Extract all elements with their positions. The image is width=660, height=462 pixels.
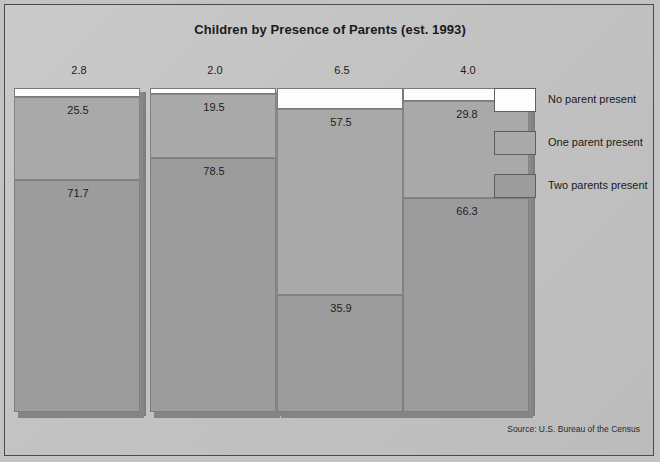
bar-value-label-no-parent: 2.8	[14, 64, 144, 76]
bar-value-label: 66.3	[404, 205, 529, 217]
legend-swatch	[494, 88, 536, 112]
bar-stack: 25.571.7	[14, 88, 140, 412]
bar-segment-two-parents-present: 35.9	[277, 295, 403, 411]
bar-3d-bottom-face	[154, 412, 280, 418]
bar-value-label: 71.7	[15, 187, 140, 199]
legend-label: One parent present	[548, 136, 643, 148]
bar-value-label: 57.5	[278, 116, 403, 128]
bar-value-label-no-parent: 4.0	[403, 64, 533, 76]
bar-segment-one-parent-present: 25.5	[14, 97, 140, 180]
chart-container: Children by Presence of Parents (est. 19…	[0, 0, 660, 462]
bar-3d-bottom-face	[407, 412, 533, 418]
bar-value-label: 25.5	[15, 104, 140, 116]
bar-3d-bottom-face	[18, 412, 144, 418]
bar-segment-no-parent-present	[14, 88, 140, 97]
bar-segment-no-parent-present	[277, 88, 403, 109]
bar-stack: 19.578.5	[150, 88, 276, 412]
legend-swatch	[494, 131, 536, 155]
source-note: Source: U.S. Bureau of the Census	[507, 424, 640, 434]
bar-segment-two-parents-present: 66.3	[403, 198, 529, 413]
bar-value-label: 78.5	[151, 165, 276, 177]
bar-value-label-no-parent: 2.0	[150, 64, 280, 76]
bar-value-label-no-parent: 6.5	[277, 64, 407, 76]
legend-swatch	[494, 174, 536, 198]
bar-value-label: 35.9	[278, 302, 403, 314]
bar-3d-bottom-face	[281, 412, 407, 418]
chart-title: Children by Presence of Parents (est. 19…	[0, 22, 660, 37]
bar-3d-side-face	[140, 92, 146, 416]
bar-value-label: 19.5	[151, 101, 276, 113]
bar-segment-one-parent-present: 19.5	[150, 94, 276, 157]
legend-label: No parent present	[548, 93, 636, 105]
bar-stack: 57.535.9	[277, 88, 403, 412]
legend-label: Two parents present	[548, 179, 648, 191]
bar-segment-two-parents-present: 71.7	[14, 180, 140, 412]
bar-segment-one-parent-present: 57.5	[277, 109, 403, 295]
bar-segment-two-parents-present: 78.5	[150, 158, 276, 412]
